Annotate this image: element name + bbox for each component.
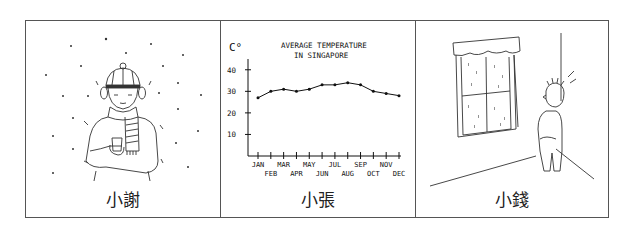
svg-text:AUG: AUG — [341, 170, 354, 178]
svg-text:JAN: JAN — [252, 161, 265, 169]
svg-text:10: 10 — [227, 130, 237, 139]
svg-text:20: 20 — [227, 109, 237, 118]
temperature-series-line — [258, 83, 399, 98]
svg-text:FEB: FEB — [264, 170, 277, 178]
chart-axes — [248, 59, 401, 156]
svg-text:30: 30 — [227, 87, 237, 96]
svg-text:40: 40 — [227, 66, 237, 75]
caption-xiao-qian: 小錢 — [416, 186, 608, 211]
svg-text:SEP: SEP — [354, 161, 367, 169]
panel-cold-person: 小謝 — [26, 21, 221, 217]
caption-xiao-xie: 小謝 — [26, 186, 220, 211]
y-axis-unit-label: C° — [229, 41, 242, 54]
panel-temperature-chart: C° AVERAGE TEMPERATURE IN SINGAPORE 1020… — [221, 21, 416, 217]
svg-text:DEC: DEC — [393, 170, 406, 178]
chart-title-line2: IN SINGAPORE — [294, 51, 349, 60]
svg-text:JUL: JUL — [329, 161, 342, 169]
svg-text:MAY: MAY — [303, 161, 316, 169]
svg-text:MAR: MAR — [277, 161, 290, 169]
comic-strip: 小謝 C° AVERAGE TEMPERATURE IN SINGAPORE 1… — [25, 20, 609, 218]
svg-text:JUN: JUN — [316, 170, 329, 178]
svg-text:APR: APR — [290, 170, 303, 178]
panel-window-boy: 小錢 — [416, 21, 608, 217]
svg-text:OCT: OCT — [367, 170, 380, 178]
svg-text:NOV: NOV — [380, 161, 393, 169]
caption-xiao-zhang: 小張 — [221, 186, 415, 211]
y-axis-ticks: 10203040 — [227, 66, 251, 140]
chart-title-line1: AVERAGE TEMPERATURE — [281, 41, 367, 50]
